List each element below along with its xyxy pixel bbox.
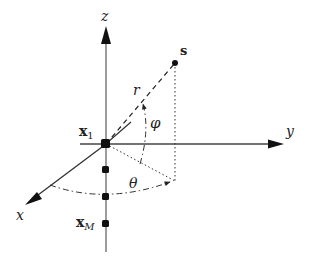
y-axis-label: y <box>285 123 295 139</box>
first-element-label: x1 <box>79 123 94 141</box>
array-element-m <box>102 220 109 227</box>
source-point <box>172 60 178 66</box>
z-axis: z <box>100 8 111 252</box>
spherical-coordinate-diagram: z y x s r φ θ x1 xM <box>0 0 311 265</box>
array-element-1 <box>101 139 110 148</box>
source-label: s <box>180 43 187 58</box>
array-element-2 <box>102 166 109 173</box>
y-axis-arrow-icon <box>268 140 284 149</box>
z-axis-label: z <box>100 8 109 24</box>
azimuth-arc <box>50 182 170 194</box>
z-axis-arrow-icon <box>101 26 111 44</box>
elevation-arc <box>140 104 146 164</box>
x-axis-label: x <box>16 207 24 223</box>
elevation-angle-label: φ <box>150 114 161 132</box>
azimuth-angle-label: θ <box>129 175 138 191</box>
range-label: r <box>133 82 141 98</box>
last-element-label: xM <box>76 214 95 232</box>
range-vector-start <box>108 122 131 142</box>
x-axis: x <box>16 144 106 223</box>
range-line <box>106 63 175 144</box>
array-element-3 <box>102 193 109 200</box>
